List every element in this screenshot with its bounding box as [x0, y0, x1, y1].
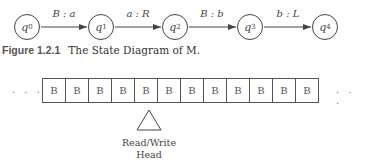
tape-cell: B	[88, 78, 112, 103]
state-subscript: 3	[251, 23, 255, 31]
state-subscript: 2	[176, 23, 180, 31]
tape-cell: B	[226, 78, 250, 103]
state-subscript: 4	[326, 23, 330, 31]
transition-label-q2-q3: B : b	[200, 8, 223, 19]
state-label: q	[319, 21, 326, 34]
state-subscript: 0	[28, 23, 32, 31]
state-label: q	[244, 21, 251, 34]
state-q1: q1	[88, 14, 114, 40]
state-label: q	[169, 21, 176, 34]
tape: B B B B B B B B B B B B	[42, 78, 319, 103]
tape-cell: B	[180, 78, 204, 103]
figure-caption: Figure 1.2.1The State Diagram of M.	[2, 44, 200, 56]
transition-label-q0-q1: B : a	[52, 8, 75, 19]
state-label: q	[21, 21, 28, 34]
tape-cell: B	[295, 78, 319, 103]
tape-cell: B	[272, 78, 296, 103]
state-q2: q2	[162, 14, 188, 40]
read-write-head-label: Read/Write Head	[122, 137, 176, 160]
tape-cell: B	[157, 78, 181, 103]
state-subscript: 1	[102, 23, 106, 31]
tape-left-ellipsis: . . .	[12, 84, 43, 95]
transition-label-q1-q2: a : R	[126, 8, 149, 19]
figure-number: Figure 1.2.1	[2, 44, 60, 56]
tape-cell: B	[65, 78, 89, 103]
tape-cell-under-head: B	[134, 78, 158, 103]
state-label: q	[95, 21, 102, 34]
state-q3: q3	[237, 14, 263, 40]
head-label-line1: Read/Write	[122, 137, 176, 149]
tape-cell: B	[249, 78, 273, 103]
state-q4: q4	[312, 14, 338, 40]
tape-cell: B	[42, 78, 66, 103]
tape-right-ellipsis: . . .	[336, 84, 365, 106]
head-label-line2: Head	[122, 149, 176, 160]
figure-caption-text: The State Diagram of M.	[68, 44, 200, 56]
tape-cell: B	[111, 78, 135, 103]
state-q0: q0	[14, 14, 40, 40]
tape-cell: B	[203, 78, 227, 103]
read-write-head-triangle	[137, 110, 161, 130]
transition-label-q3-q4: b : L	[277, 8, 300, 19]
